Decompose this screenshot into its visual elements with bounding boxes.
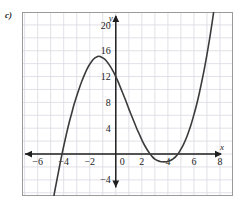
- y-tick-label: 4: [106, 123, 111, 134]
- y-tick-label: 12: [101, 71, 111, 82]
- y-tick-label: 8: [106, 97, 111, 108]
- y-axis-label: y: [108, 13, 113, 23]
- chart-screenshot: c) −6−4−202468−448121620 x y: [0, 0, 246, 205]
- cubic-function-graph: −6−4−202468−448121620 x y: [22, 12, 233, 196]
- x-tick-label: 8: [217, 156, 222, 167]
- x-axis-label: x: [219, 142, 224, 152]
- x-tick-label: 6: [191, 156, 196, 167]
- plot-area: −6−4−202468−448121620 x y: [22, 12, 233, 196]
- y-tick-label: −4: [100, 174, 111, 185]
- y-tick-label: 16: [101, 45, 111, 56]
- x-tick-label: −2: [84, 156, 95, 167]
- x-tick-label: 2: [139, 156, 144, 167]
- panel-label: c): [5, 10, 12, 20]
- x-tick-label: 0: [120, 156, 125, 167]
- x-tick-label: −6: [32, 156, 43, 167]
